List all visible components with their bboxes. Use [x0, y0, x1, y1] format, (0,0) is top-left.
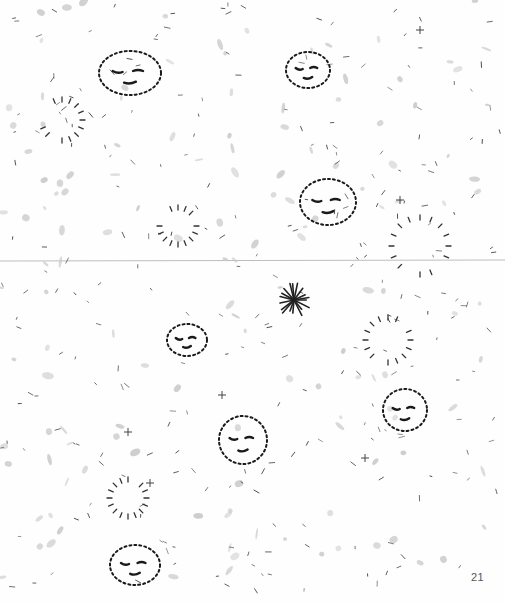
dash-mark	[372, 174, 374, 177]
closed-eye-icon	[113, 71, 123, 73]
dash-mark	[136, 65, 140, 66]
smudge-mark	[35, 542, 44, 551]
smudge-mark	[168, 573, 179, 580]
ray-stroke	[75, 104, 79, 108]
smudge-mark	[255, 528, 259, 540]
dash-mark	[51, 573, 53, 575]
smudge-mark	[283, 537, 288, 541]
dash-mark	[181, 363, 184, 364]
dash-mark	[351, 462, 356, 466]
dash-mark	[176, 451, 179, 453]
smudge-mark	[46, 428, 53, 435]
dash-mark	[90, 503, 92, 505]
dash-mark	[171, 232, 172, 235]
dash-mark	[255, 589, 258, 593]
dash-mark	[452, 317, 455, 318]
dash-mark	[163, 541, 166, 543]
smudge-mark	[59, 425, 68, 435]
smudge-mark	[66, 441, 73, 446]
dash-mark	[399, 170, 401, 171]
smudge-mark	[378, 204, 385, 210]
dash-mark	[435, 162, 437, 166]
smudge-mark	[376, 119, 385, 127]
dash-mark	[225, 584, 229, 586]
dash-mark	[311, 144, 313, 145]
dash-mark	[327, 145, 328, 149]
smudge-mark	[270, 191, 278, 198]
smudge-mark	[387, 159, 398, 170]
dash-mark	[56, 103, 59, 105]
smudge-mark	[162, 14, 168, 19]
cross-mark	[218, 391, 226, 399]
ray-stroke	[109, 504, 114, 506]
dash-mark	[154, 39, 157, 40]
smudge-mark	[62, 4, 72, 11]
dash-mark	[127, 58, 132, 59]
dash-mark	[318, 439, 322, 442]
dash-mark	[28, 392, 33, 395]
mouth-mark	[401, 418, 409, 420]
dash-mark	[198, 114, 199, 116]
smudge-mark	[335, 545, 343, 553]
dash-mark	[98, 283, 101, 285]
smudge-mark	[485, 104, 490, 106]
dash-mark	[404, 34, 406, 36]
dash-mark	[2, 283, 4, 287]
dash-mark	[66, 118, 67, 122]
smudge-mark	[327, 510, 334, 517]
dash-mark	[256, 314, 259, 317]
smudge-mark	[48, 512, 54, 519]
dash-mark	[168, 422, 170, 426]
page-number: 21	[471, 571, 484, 583]
smudge-mark	[439, 555, 447, 564]
dash-mark	[379, 477, 383, 480]
dash-mark	[248, 552, 249, 556]
smudge-mark	[65, 170, 75, 180]
smudge-mark	[45, 538, 57, 550]
smudge-mark	[469, 176, 480, 182]
smudge-mark	[42, 261, 49, 268]
dash-mark	[122, 232, 124, 237]
ray-stroke	[391, 234, 396, 236]
dash-mark	[262, 574, 264, 576]
dash-mark	[306, 55, 307, 59]
closed-eye-icon	[245, 437, 253, 438]
dash-mark	[267, 327, 272, 328]
smudge-mark	[229, 551, 241, 562]
dash-mark	[364, 243, 367, 245]
dash-mark	[361, 64, 365, 67]
cross-mark	[361, 454, 369, 462]
dash-mark	[59, 112, 60, 114]
dash-mark	[496, 489, 497, 493]
dash-mark	[467, 450, 468, 454]
closed-eye-icon	[310, 67, 317, 68]
face-outline	[286, 52, 330, 88]
ray-stroke	[396, 358, 398, 363]
smudge-mark	[60, 187, 70, 197]
mouth-mark	[183, 346, 191, 348]
dash-mark	[364, 423, 365, 425]
dash-mark	[15, 160, 16, 165]
ray-stroke	[370, 322, 374, 326]
dash-mark	[422, 205, 428, 206]
smudge-mark	[24, 148, 33, 154]
dash-mark	[186, 312, 189, 315]
dash-mark	[303, 390, 306, 391]
smudge-mark	[447, 403, 458, 413]
smudge-mark	[165, 58, 175, 65]
dash-mark	[354, 347, 357, 348]
dash-mark	[123, 72, 126, 75]
dash-mark	[306, 441, 308, 445]
dash-mark	[337, 213, 338, 218]
face-outline	[167, 324, 207, 356]
dash-mark	[62, 107, 67, 111]
ray-stroke	[113, 509, 117, 513]
ray-stroke	[170, 207, 172, 212]
dash-mark	[357, 258, 358, 260]
cross-mark	[146, 479, 154, 487]
ray-stroke	[134, 513, 136, 518]
smudge-mark	[56, 525, 65, 535]
dash-mark	[174, 472, 179, 473]
dash-mark	[51, 77, 54, 81]
dash-mark	[70, 96, 73, 97]
